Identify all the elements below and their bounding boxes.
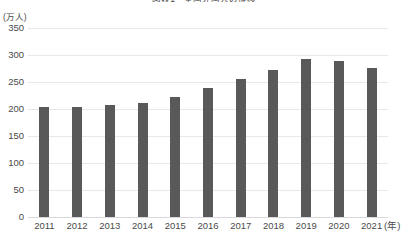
x-tick-label: 2017 xyxy=(230,220,251,232)
bar xyxy=(105,105,115,217)
x-tick-label: 2018 xyxy=(263,220,284,232)
x-tick-label: 2021 xyxy=(361,220,382,232)
y-tick-label: 100 xyxy=(0,158,24,168)
y-tick-label: 50 xyxy=(0,185,24,195)
gridline xyxy=(28,28,388,29)
x-tick-label: 2011 xyxy=(34,220,54,232)
x-axis-unit-label: (年) xyxy=(384,220,400,232)
bar xyxy=(138,103,148,217)
x-tick-label: 2015 xyxy=(165,220,186,232)
bar xyxy=(170,97,180,217)
bar xyxy=(203,88,213,217)
y-tick-label: 250 xyxy=(0,77,24,87)
y-tick-label: 350 xyxy=(0,23,24,33)
bar xyxy=(334,61,344,217)
plot-area xyxy=(28,28,388,217)
bar xyxy=(72,107,82,217)
y-tick-label: 150 xyxy=(0,131,24,141)
x-tick-label: 2019 xyxy=(296,220,317,232)
x-tick-label: 2020 xyxy=(328,220,349,232)
chart-figure: 図表1 全国外国人の推移 (万人) 050100150200250300350 … xyxy=(0,0,408,239)
gridline xyxy=(28,55,388,56)
bar xyxy=(301,59,311,217)
chart-title: 図表1 全国外国人の推移 xyxy=(0,0,408,2)
x-tick-label: 2016 xyxy=(197,220,218,232)
axis-baseline xyxy=(28,217,388,218)
y-tick-label: 0 xyxy=(0,212,24,222)
x-tick-label: 2012 xyxy=(67,220,88,232)
bar xyxy=(236,79,246,217)
bar xyxy=(268,70,278,217)
bar xyxy=(39,107,49,217)
x-tick-label: 2014 xyxy=(132,220,153,232)
x-tick-label: 2013 xyxy=(99,220,120,232)
x-axis-tick-labels: 2011201220132014201520162017201820192020… xyxy=(28,220,388,236)
y-tick-label: 200 xyxy=(0,104,24,114)
bar xyxy=(367,68,377,217)
y-axis-tick-labels: 050100150200250300350 xyxy=(0,28,24,217)
y-tick-label: 300 xyxy=(0,50,24,60)
